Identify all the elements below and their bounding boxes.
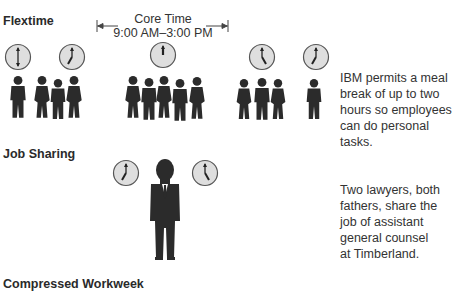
businessman-icon (150, 159, 180, 260)
person-icon (141, 78, 156, 120)
desc-line: IBM permits a meal (340, 70, 454, 86)
compressed-workweek-heading: Compressed Workweek (3, 277, 144, 291)
person-icon (189, 77, 204, 119)
desc-line: job of assistant (340, 214, 454, 230)
clock-icon (114, 161, 139, 186)
person-icon (254, 78, 269, 120)
person-icon (237, 79, 252, 119)
person-icon (125, 76, 140, 118)
desc-line: hours so employees (340, 102, 454, 118)
core-time-arrow (97, 20, 228, 32)
clock-icon (6, 45, 31, 70)
clock-icon (304, 45, 329, 70)
job-sharing-heading: Job Sharing (3, 147, 75, 161)
person-icon (307, 79, 322, 119)
person-icon (34, 76, 49, 118)
desc-line: fathers, share the (340, 198, 454, 214)
person-icon (66, 76, 81, 118)
person-icon (10, 76, 25, 118)
clock-icon (151, 43, 176, 68)
person-icon (51, 79, 66, 119)
flextime-description: IBM permits a meal break of up to two ho… (340, 70, 454, 150)
desc-line: can do personal tasks. (340, 118, 454, 150)
desc-line: general counsel (340, 230, 454, 246)
desc-line: at Timberland. (340, 246, 454, 262)
desc-line: break of up to two (340, 86, 454, 102)
clock-icon (193, 161, 218, 186)
person-icon (172, 79, 187, 121)
clock-icon (60, 45, 85, 70)
person-icon (156, 76, 171, 118)
job-sharing-description: Two lawyers, both fathers, share the job… (340, 182, 454, 262)
person-icon (271, 79, 286, 119)
desc-line: Two lawyers, both (340, 182, 454, 198)
clock-icon (250, 45, 275, 70)
